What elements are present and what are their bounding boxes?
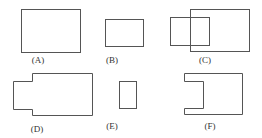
label-b: (B) [106,55,118,65]
shape-a-rectangle [22,10,81,53]
label-f: (F) [205,121,216,131]
shape-b-rectangle [106,20,144,47]
label-a: (A) [32,55,45,65]
shape-d-stepped-outline [14,74,93,116]
label-c: (C) [199,55,211,65]
label-d: (D) [31,124,44,134]
shape-e-rectangle [120,82,137,109]
label-e: (E) [106,121,118,131]
shape-f-notched-outline [185,74,243,115]
shapes-diagram: (A) (B) (C) (D) (E) (F) [0,0,262,138]
